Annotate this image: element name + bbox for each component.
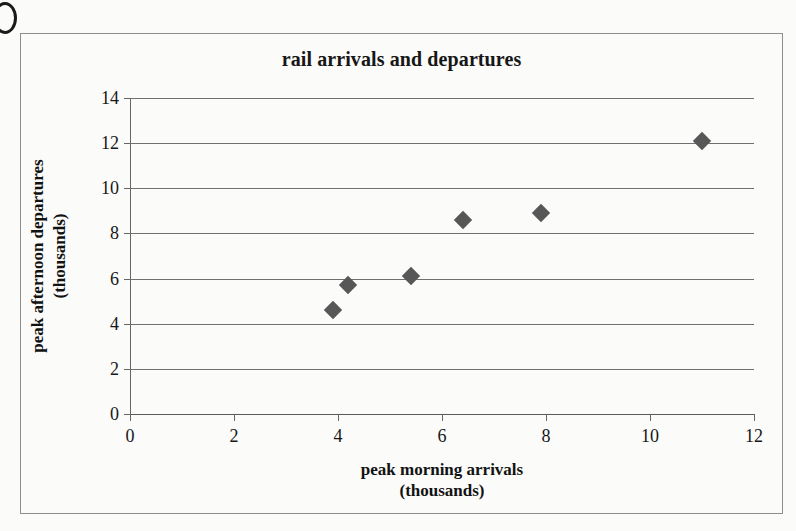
y-axis-tick-label: 4 [110,313,119,334]
x-axis-tick [130,414,131,421]
chart-frame: rail arrivals and departures 02468101214… [20,33,783,514]
x-axis-title-line-1: peak morning arrivals [130,459,754,480]
y-axis-tick-label: 10 [101,178,119,199]
y-axis-tick-label: 8 [110,223,119,244]
x-axis-tick-label: 0 [126,426,135,447]
x-axis-tick-label: 8 [542,426,551,447]
gridline [130,369,754,370]
chart-title: rail arrivals and departures [21,48,782,71]
data-point [532,204,550,222]
x-axis-tick-label: 10 [641,426,659,447]
gridline [130,143,754,144]
data-point [324,301,342,319]
y-axis-title-line-2: (thousands) [49,98,71,414]
x-axis-tick-label: 4 [334,426,343,447]
gridline [130,188,754,189]
y-axis-tick-label: 12 [101,133,119,154]
x-axis-tick [234,414,235,421]
gridline [130,98,754,99]
x-axis-title: peak morning arrivals (thousands) [130,459,754,501]
y-axis-tick [124,98,130,99]
data-point [693,132,711,150]
data-point [402,267,420,285]
y-axis-tick-label: 0 [110,404,119,425]
y-axis-tick [124,143,130,144]
y-axis-tick-label: 6 [110,268,119,289]
x-axis-tick-label: 6 [438,426,447,447]
y-axis-tick [124,369,130,370]
x-axis-tick [754,414,755,421]
x-axis-title-line-2: (thousands) [130,480,754,501]
data-point [454,211,472,229]
x-axis-tick-label: 2 [230,426,239,447]
y-axis-tick [124,279,130,280]
x-axis-tick [442,414,443,421]
y-axis-tick [124,188,130,189]
margin-glyph [0,2,17,34]
y-axis-tick-label: 2 [110,358,119,379]
gridline [130,279,754,280]
y-axis-title-line-1: peak afternoon departures [27,98,49,414]
gridline [130,324,754,325]
page-background: rail arrivals and departures 02468101214… [0,0,796,531]
x-axis-tick [338,414,339,421]
gridline [130,233,754,234]
x-axis-tick [650,414,651,421]
x-axis-tick [546,414,547,421]
x-axis-tick-label: 12 [745,426,763,447]
y-axis-tick-label: 14 [101,88,119,109]
y-axis-tick [124,233,130,234]
y-axis-title: peak afternoon departures (thousands) [27,98,85,414]
plot-area: 02468101214 024681012 [130,98,754,414]
y-axis-tick [124,324,130,325]
